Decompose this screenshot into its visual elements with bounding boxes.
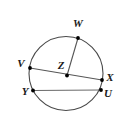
point-z-center bbox=[65, 74, 69, 78]
radius-z-w bbox=[67, 38, 78, 76]
point-y bbox=[31, 89, 35, 93]
point-w bbox=[76, 36, 80, 40]
label-point-y: Y bbox=[22, 85, 30, 97]
label-point-w: W bbox=[73, 17, 84, 29]
label-point-x: X bbox=[105, 71, 114, 83]
label-point-u: U bbox=[104, 87, 113, 99]
geometry-figure: W V Z X Y U bbox=[0, 0, 131, 137]
circle-diagram-svg: W V Z X Y U bbox=[0, 0, 131, 137]
point-u bbox=[99, 88, 103, 92]
label-point-z: Z bbox=[57, 59, 65, 71]
label-point-v: V bbox=[17, 57, 26, 69]
chord-y-u bbox=[33, 90, 101, 91]
point-x bbox=[100, 78, 104, 82]
point-v bbox=[28, 66, 32, 70]
